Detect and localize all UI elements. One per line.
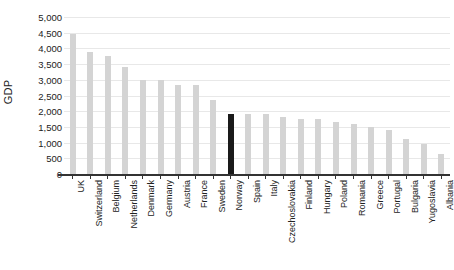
x-label-slot: Switzerland bbox=[82, 180, 100, 268]
x-tick-slot bbox=[397, 175, 415, 179]
x-label-slot: Netherlands bbox=[117, 180, 135, 268]
x-tick-slot bbox=[415, 175, 433, 179]
x-axis-tick bbox=[353, 175, 354, 179]
x-label-slot: Romania bbox=[345, 180, 363, 268]
bar bbox=[403, 139, 409, 174]
bar bbox=[421, 144, 427, 174]
x-axis-category-labels: UKSwitzerlandBelgiumNetherlandsDenmarkGe… bbox=[64, 180, 450, 268]
x-axis-tick bbox=[178, 175, 179, 179]
x-label-slot: Czechoslovakia bbox=[275, 180, 293, 268]
bar-slot bbox=[204, 17, 222, 174]
x-axis-tick bbox=[213, 175, 214, 179]
x-label-slot: Norway bbox=[222, 180, 240, 268]
bar bbox=[122, 67, 128, 174]
x-label-slot: Greece bbox=[362, 180, 380, 268]
x-tick-slot bbox=[257, 175, 275, 179]
y-axis-tick-label: 4,000 bbox=[26, 43, 62, 54]
x-label-slot: Denmark bbox=[134, 180, 152, 268]
x-axis-tick bbox=[265, 175, 266, 179]
x-tick-slot bbox=[292, 175, 310, 179]
x-axis-tick bbox=[142, 175, 143, 179]
y-axis-tick-labels: 5,0004,5004,0003,5003,0002,5002,0001,500… bbox=[26, 11, 62, 179]
bar bbox=[263, 114, 269, 174]
x-tick-slot bbox=[327, 175, 345, 179]
x-tick-slot bbox=[239, 175, 257, 179]
y-axis-title: GDP bbox=[2, 62, 14, 122]
y-axis-tick-label: 5,000 bbox=[26, 12, 62, 23]
y-axis-tick-label: 4,500 bbox=[26, 27, 62, 38]
bar bbox=[315, 119, 321, 174]
y-axis-tick-label: 3,000 bbox=[26, 74, 62, 85]
x-axis-tick bbox=[441, 175, 442, 179]
x-tick-slot bbox=[169, 175, 187, 179]
x-tick-slot bbox=[380, 175, 398, 179]
x-tick-slot bbox=[310, 175, 328, 179]
x-tick-slot bbox=[432, 175, 450, 179]
bar bbox=[193, 85, 199, 174]
x-label-slot: Sweden bbox=[204, 180, 222, 268]
x-axis-tick bbox=[160, 175, 161, 179]
x-label-slot: Austria bbox=[169, 180, 187, 268]
bar-slot bbox=[152, 17, 170, 174]
y-axis-tick-label: 1,000 bbox=[26, 137, 62, 148]
bar bbox=[333, 122, 339, 174]
x-label-slot: Portugal bbox=[380, 180, 398, 268]
bar-slot bbox=[222, 17, 240, 174]
x-label-slot: Albania bbox=[432, 180, 450, 268]
bar-slot bbox=[432, 17, 450, 174]
x-axis-tick bbox=[125, 175, 126, 179]
x-tick-slot bbox=[204, 175, 222, 179]
x-axis-tick bbox=[423, 175, 424, 179]
bar-slot bbox=[345, 17, 363, 174]
bar bbox=[210, 100, 216, 174]
bar-slot bbox=[64, 17, 82, 174]
bar-slot bbox=[380, 17, 398, 174]
x-label-slot: Poland bbox=[327, 180, 345, 268]
x-axis-tick bbox=[90, 175, 91, 179]
x-label-slot: Finland bbox=[292, 180, 310, 268]
plot-area bbox=[64, 17, 450, 174]
x-tick-slot bbox=[82, 175, 100, 179]
x-tick-slot bbox=[134, 175, 152, 179]
bar-slot bbox=[239, 17, 257, 174]
y-axis-tick-label: 2,500 bbox=[26, 90, 62, 101]
bar bbox=[368, 127, 374, 174]
x-axis-category-label: Albania bbox=[445, 180, 454, 210]
x-axis-tick bbox=[248, 175, 249, 179]
y-axis-tick-label: 0 bbox=[26, 169, 62, 180]
bar-highlighted bbox=[228, 114, 234, 174]
bar-slot bbox=[99, 17, 117, 174]
x-label-slot: Italy bbox=[257, 180, 275, 268]
bar bbox=[87, 52, 93, 174]
bar bbox=[245, 114, 251, 174]
x-axis-tick bbox=[318, 175, 319, 179]
bar bbox=[438, 154, 444, 174]
x-tick-slot bbox=[64, 175, 82, 179]
bar-slot bbox=[117, 17, 135, 174]
x-axis-tick bbox=[406, 175, 407, 179]
x-axis-tick-marks bbox=[64, 175, 450, 179]
bar-slot bbox=[134, 17, 152, 174]
bar bbox=[70, 34, 76, 174]
x-tick-slot bbox=[187, 175, 205, 179]
bar bbox=[351, 124, 357, 174]
x-label-slot: UK bbox=[64, 180, 82, 268]
bar bbox=[175, 85, 181, 174]
bar-slot bbox=[397, 17, 415, 174]
bar bbox=[158, 80, 164, 174]
x-tick-slot bbox=[275, 175, 293, 179]
x-tick-slot bbox=[152, 175, 170, 179]
bar-slot bbox=[415, 17, 433, 174]
bar-slot bbox=[292, 17, 310, 174]
x-axis-tick bbox=[107, 175, 108, 179]
bar-slot bbox=[275, 17, 293, 174]
x-label-slot: Belgium bbox=[99, 180, 117, 268]
x-label-slot: France bbox=[187, 180, 205, 268]
x-label-slot: Yugoslavia bbox=[415, 180, 433, 268]
x-tick-slot bbox=[345, 175, 363, 179]
bar bbox=[105, 56, 111, 174]
x-axis-tick bbox=[335, 175, 336, 179]
x-tick-slot bbox=[99, 175, 117, 179]
bar bbox=[386, 130, 392, 174]
x-axis-tick bbox=[72, 175, 73, 179]
